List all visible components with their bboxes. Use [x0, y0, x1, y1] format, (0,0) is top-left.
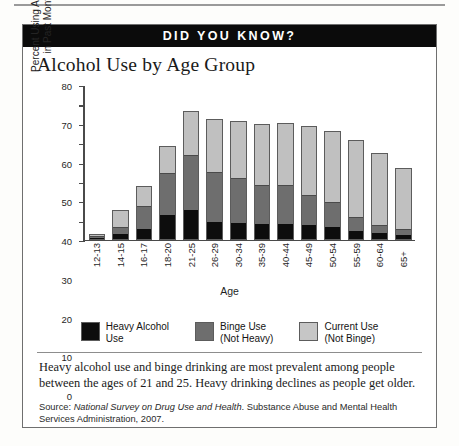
- stacked-bar[interactable]: [395, 168, 412, 240]
- x-tick-cell: 55-59: [344, 243, 368, 267]
- bar-segment-current: [231, 122, 246, 178]
- x-tick-cell: 26-29: [203, 243, 227, 267]
- bar-segment-heavy: [231, 223, 246, 238]
- bar-cell: [156, 87, 180, 240]
- bar-segment-binge: [207, 172, 222, 222]
- bar-cell: [368, 87, 392, 240]
- y-tick-label: 20: [61, 313, 72, 324]
- bar-segment-binge: [278, 185, 293, 224]
- x-tick-cell: 18-20: [156, 243, 180, 267]
- bar-cell: [179, 87, 203, 240]
- bar-segment-current: [372, 154, 387, 225]
- bar-segment-binge: [325, 202, 340, 227]
- x-tick-label: 30-34: [233, 243, 244, 267]
- x-tick-label: 12-13: [91, 243, 102, 267]
- legend-item[interactable]: Binge Use (Not Heavy): [195, 321, 273, 344]
- x-tick-cell: 16-17: [132, 243, 156, 267]
- did-you-know-card: DID YOU KNOW? Alcohol Use by Age Group P…: [22, 24, 437, 428]
- y-tick-label: 60: [61, 158, 72, 169]
- stacked-bar[interactable]: [254, 124, 271, 240]
- x-axis-tick-labels: 12-1314-1516-1718-2021-2526-2930-3435-39…: [85, 243, 415, 267]
- banner-label: DID YOU KNOW?: [163, 29, 297, 43]
- legend-item[interactable]: Heavy Alcohol Use: [81, 321, 169, 344]
- y-tick-label: 10: [61, 352, 72, 363]
- x-tick-cell: 30-34: [226, 243, 250, 267]
- caption-text: Heavy alcohol use and binge drinking are…: [39, 360, 420, 391]
- stacked-bar[interactable]: [136, 186, 153, 240]
- bar-segment-heavy: [325, 227, 340, 238]
- bar-segment-current: [255, 125, 270, 185]
- bar-segment-current: [396, 169, 411, 229]
- bar-cell: [297, 87, 321, 240]
- x-tick-label: 65+: [398, 243, 409, 267]
- stacked-bar[interactable]: [277, 123, 294, 240]
- stacked-bar[interactable]: [89, 234, 106, 240]
- x-tick-label: 26-29: [209, 243, 220, 267]
- legend-label: Binge Use (Not Heavy): [220, 321, 273, 344]
- stacked-bar[interactable]: [371, 153, 388, 239]
- x-tick-label: 40-44: [280, 243, 291, 267]
- bar-cell: [321, 87, 345, 240]
- x-tick-cell: 21-25: [179, 243, 203, 267]
- bar-cell: [226, 87, 250, 240]
- x-tick-label: 45-49: [303, 243, 314, 267]
- stacked-bar[interactable]: [112, 210, 129, 240]
- x-tick-cell: 12-13: [85, 243, 109, 267]
- bar-segment-current: [349, 141, 364, 217]
- x-tick-cell: 40-44: [274, 243, 298, 267]
- bar-segment-current: [278, 124, 293, 185]
- x-tick-label: 60-64: [374, 243, 385, 267]
- y-tick-label: 80: [61, 81, 72, 92]
- bar-cell: [132, 87, 156, 240]
- x-tick-cell: 50-54: [321, 243, 345, 267]
- bar-cell: [85, 87, 109, 240]
- bar-segment-heavy: [255, 224, 270, 238]
- stacked-bar[interactable]: [348, 140, 365, 239]
- bar-cell: [344, 87, 368, 240]
- chart-legend: Heavy Alcohol UseBinge Use (Not Heavy)Cu…: [23, 321, 436, 344]
- bar-segment-heavy: [160, 215, 175, 238]
- bar-segment-binge: [184, 155, 199, 211]
- stacked-bar[interactable]: [230, 121, 247, 240]
- stacked-bar[interactable]: [301, 126, 318, 240]
- bar-segment-current: [184, 112, 199, 154]
- stacked-bar[interactable]: [206, 119, 223, 239]
- legend-swatch-icon: [81, 322, 100, 341]
- source-title: National Survey on Drug Use and Health: [74, 402, 242, 412]
- x-tick-label: 14-15: [115, 243, 126, 267]
- x-axis-title: Age: [23, 285, 436, 297]
- stacked-bar[interactable]: [324, 131, 341, 240]
- bar-segment-current: [137, 187, 152, 206]
- bar-segment-binge: [231, 178, 246, 223]
- bar-segment-binge: [302, 195, 317, 225]
- source-note: Source: National Survey on Drug Use and …: [39, 401, 420, 425]
- legend-item[interactable]: Current Use (Not Binge): [299, 321, 378, 344]
- bar-cell: [109, 87, 133, 240]
- stacked-bar[interactable]: [183, 111, 200, 239]
- bar-segment-current: [207, 120, 222, 172]
- x-tick-cell: 65+: [392, 243, 416, 267]
- chart-axes: 01020304050607080: [83, 86, 415, 241]
- bar-cell: [274, 87, 298, 240]
- x-tick-label: 16-17: [138, 243, 149, 267]
- y-axis-title: Percent Using Alcohol in Past Month: [30, 0, 54, 98]
- chart-title: Alcohol Use by Age Group: [37, 54, 436, 76]
- stacked-bar[interactable]: [159, 146, 176, 240]
- bar-segment-binge: [137, 206, 152, 229]
- bar-segment-current: [113, 211, 128, 227]
- caption-divider: [37, 352, 422, 353]
- x-tick-cell: 60-64: [368, 243, 392, 267]
- bar-segment-binge: [255, 185, 270, 224]
- bar-segment-heavy: [302, 225, 317, 238]
- x-tick-cell: 14-15: [109, 243, 133, 267]
- y-tick-label: 40: [61, 236, 72, 247]
- bar-segment-heavy: [137, 229, 152, 238]
- x-tick-cell: 45-49: [297, 243, 321, 267]
- bar-series-group: [85, 87, 415, 240]
- legend-swatch-icon: [299, 322, 318, 341]
- x-axis-line: [83, 240, 415, 242]
- bar-segment-binge: [113, 227, 128, 234]
- bar-segment-heavy: [396, 235, 411, 239]
- bar-cell: [392, 87, 416, 240]
- y-tick-label: 50: [61, 197, 72, 208]
